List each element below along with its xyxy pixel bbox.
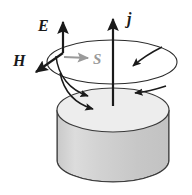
inflow-arrow-right-lower — [135, 86, 166, 93]
label-e-field: E — [37, 17, 49, 34]
label-poynting: S — [93, 51, 101, 67]
poynting-vector-diagram: E H S j — [0, 0, 192, 195]
label-h-field: H — [12, 52, 26, 69]
inflow-arrow-right-upper — [133, 47, 162, 66]
figure-container: E H S j — [0, 0, 192, 195]
poynting-vector — [64, 57, 88, 58]
s-arrow — [64, 57, 88, 58]
label-current-density: j — [124, 10, 132, 28]
